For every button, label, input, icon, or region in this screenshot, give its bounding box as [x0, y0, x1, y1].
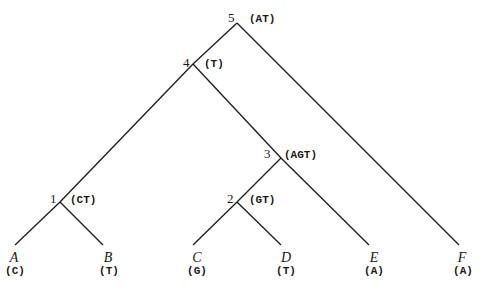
node-number: 1: [50, 191, 57, 206]
leaf-name: D: [280, 250, 291, 265]
edge-2-D: [237, 202, 281, 245]
edge-4-3: [193, 64, 281, 158]
edge-2-C: [193, 202, 237, 245]
leaf-A: A (C): [5, 250, 25, 277]
tree-edges: [15, 23, 459, 245]
internal-node-2: 2 (GT): [227, 191, 275, 206]
internal-node-5: 5 (AT): [228, 10, 275, 25]
leaf-name: F: [457, 250, 467, 265]
leaf-name: B: [104, 250, 113, 265]
internal-node-1: 1 (CT): [50, 191, 96, 206]
node-number: 3: [264, 146, 271, 161]
node-state: (GT): [249, 194, 275, 206]
leaf-state: (C): [5, 265, 25, 277]
leaf-state: (T): [276, 265, 296, 277]
edge-4-1: [60, 64, 193, 202]
leaf-name: C: [192, 250, 202, 265]
node-number: 5: [228, 10, 235, 25]
leaf-F: F (A): [453, 250, 473, 277]
leaf-state: (G): [187, 265, 207, 277]
node-state: (AT): [249, 13, 275, 25]
leaf-state: (A): [364, 265, 384, 277]
leaf-name: E: [369, 250, 379, 265]
internal-node-4: 4 (T): [183, 55, 224, 70]
leaf-state: (T): [99, 265, 119, 277]
edge-1-B: [60, 202, 103, 245]
node-number: 4: [183, 55, 190, 70]
leaf-E: E (A): [364, 250, 384, 277]
node-state: (AGT): [284, 149, 317, 161]
node-state: (CT): [70, 194, 96, 206]
edge-3-E: [281, 158, 369, 245]
leaf-B: B (T): [99, 250, 119, 277]
node-number: 2: [227, 191, 234, 206]
leaf-name: A: [9, 250, 19, 265]
phylogenetic-tree: 5 (AT) 4 (T) 3 (AGT) 2 (GT) 1 (CT) A (C)…: [0, 0, 485, 291]
edge-1-A: [15, 202, 60, 245]
node-state: (T): [204, 58, 224, 70]
leaf-D: D (T): [276, 250, 296, 277]
leaf-state: (A): [453, 265, 473, 277]
edge-5-F: [237, 23, 459, 245]
leaf-C: C (G): [187, 250, 207, 277]
